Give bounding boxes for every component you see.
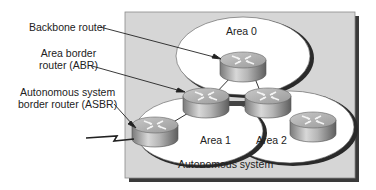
area1-label: Area 1 xyxy=(200,134,231,146)
asbr-router-icon xyxy=(132,117,178,147)
area2-router-icon xyxy=(290,112,336,142)
autonomous-system-label: Autonomous system xyxy=(178,158,273,170)
asbr-label: Autonomous system border router (ASBR) xyxy=(18,86,117,110)
backbone-router-icon xyxy=(220,52,266,82)
abr-area1-router-icon xyxy=(183,88,229,118)
area0-label: Area 0 xyxy=(226,25,257,37)
abr-label: Area border router (ABR) xyxy=(39,47,98,71)
area2-label: Area 2 xyxy=(256,134,287,146)
abr-area2-router-icon xyxy=(245,88,291,118)
backbone-router-label: Backbone router xyxy=(29,21,106,33)
